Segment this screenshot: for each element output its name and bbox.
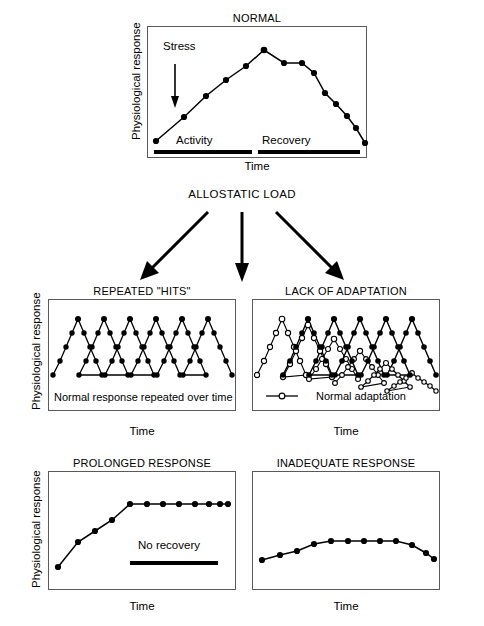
- panel-prolonged-response-norecovery-bar: [130, 561, 218, 565]
- panel-lack-of-adaptation-xlabel: Time: [252, 425, 440, 437]
- panel-lack-of-adaptation-title: LACK OF ADAPTATION: [252, 285, 440, 297]
- panel-inadequate-response-xlabel: Time: [252, 600, 440, 612]
- allostatic-load-arrows: [0, 0, 484, 300]
- legend-normal-adaptation-swatch: [266, 393, 298, 399]
- arrow-center-icon: [235, 212, 249, 282]
- panel-prolonged-response-title: PROLONGED RESPONSE: [48, 457, 236, 469]
- panel-prolonged-response-ylabel: Physiological response: [30, 470, 42, 588]
- panel-prolonged-response-caption: No recovery: [138, 539, 200, 551]
- inadequate-response-markers: [259, 538, 437, 563]
- prolonged-response-markers: [55, 501, 231, 570]
- repeated-hits-markers: [50, 316, 234, 378]
- panel-inadequate-response-chart: [252, 471, 440, 590]
- panel-repeated-hits-caption: Normal response repeated over time: [54, 391, 233, 403]
- panel-repeated-hits-title: REPEATED "HITS": [48, 285, 236, 297]
- panel-prolonged-response-chart: [48, 471, 236, 590]
- panel-lack-of-adaptation-legend-label: Normal adaptation: [316, 390, 406, 402]
- panel-prolonged-response-xlabel: Time: [48, 600, 236, 612]
- panel-repeated-hits-ylabel: Physiological response: [30, 292, 42, 410]
- arrow-right-icon: [276, 212, 344, 280]
- normal-adaptation-markers: [254, 316, 438, 393]
- panel-repeated-hits-xlabel: Time: [48, 425, 236, 437]
- prolonged-response-line: [58, 504, 228, 567]
- arrow-left-icon: [140, 212, 208, 280]
- panel-inadequate-response-title: INADEQUATE RESPONSE: [252, 457, 440, 469]
